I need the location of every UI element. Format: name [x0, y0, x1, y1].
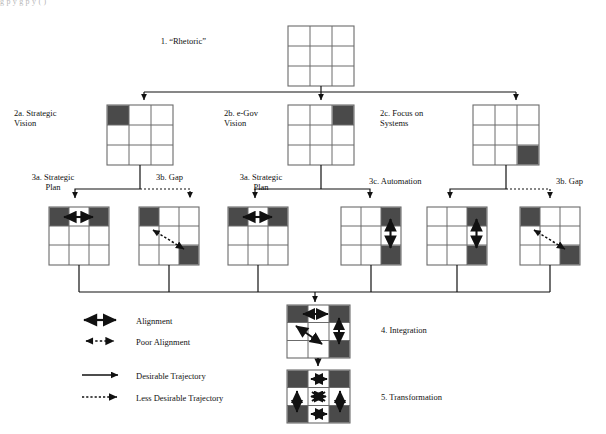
- grid-egov-vision: [288, 105, 354, 165]
- grid-strategic-vision: [107, 105, 173, 165]
- figure-canvas: g p y g p y ( ) 1. “Rhetoric” 2a. Strate…: [0, 0, 606, 434]
- grid-3a-strategic-plan-mid: [228, 207, 288, 265]
- grid-transformation: [287, 370, 350, 423]
- grid-rhetoric: [288, 26, 354, 86]
- grid-3b-gap-right: [520, 207, 580, 265]
- grid-3a-strategic-plan-left: [49, 207, 109, 265]
- grid-3c-automation-right: [427, 207, 487, 265]
- diagram-vectors: [0, 0, 606, 434]
- connector-2b-to-row3: [255, 165, 370, 198]
- grid-integration: [287, 305, 350, 358]
- connector-rhetoric-to-row2: [144, 86, 516, 100]
- grid-3b-gap-left: [139, 207, 199, 265]
- connector-2a-to-row3: [75, 165, 190, 198]
- connector-row3-to-integration: [79, 265, 550, 302]
- grid-3c-automation-left: [341, 207, 401, 265]
- connector-2c-to-row3: [450, 165, 550, 198]
- grid-focus-on-systems: [473, 105, 539, 165]
